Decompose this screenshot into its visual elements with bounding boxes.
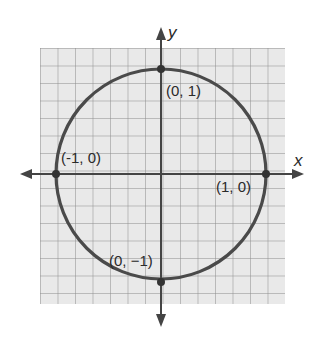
label-point-left: (-1, 0) (61, 149, 101, 166)
point-left (52, 170, 60, 178)
unit-circle-diagram: y x (0, 1) (-1, 0) (1, 0) (0, −1) (0, 0, 318, 349)
label-point-right: (1, 0) (216, 178, 251, 195)
point-right (262, 170, 270, 178)
point-bottom (157, 278, 165, 286)
point-top (157, 65, 165, 73)
label-point-bottom: (0, −1) (109, 252, 153, 269)
y-axis-up-arrow-icon (156, 27, 166, 40)
grid-lines (40, 48, 285, 304)
x-axis-label: x (293, 151, 303, 170)
y-axis-down-arrow-icon (156, 314, 166, 327)
y-axis-label: y (167, 23, 178, 42)
x-axis-right-arrow-icon (292, 169, 304, 179)
label-point-top: (0, 1) (166, 82, 201, 99)
x-axis-left-arrow-icon (20, 169, 32, 179)
